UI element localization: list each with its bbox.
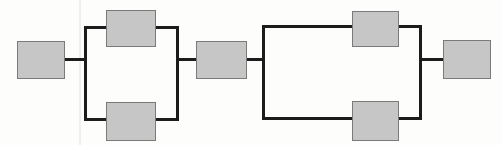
block-input-rect[interactable] [18, 42, 65, 79]
block-b-bottom[interactable] [353, 102, 399, 141]
block-output-rect[interactable] [444, 41, 491, 79]
block-b-bottom-rect[interactable] [353, 102, 399, 141]
diagram-canvas [0, 0, 502, 145]
block-input[interactable] [18, 42, 65, 79]
block-output[interactable] [444, 41, 491, 79]
block-a-bottom-rect[interactable] [107, 103, 156, 141]
block-a-top[interactable] [107, 11, 156, 47]
block-a-bottom[interactable] [107, 103, 156, 141]
reliability-block-diagram [0, 0, 502, 145]
block-middle[interactable] [197, 42, 247, 79]
block-middle-rect[interactable] [197, 42, 247, 79]
block-b-top-rect[interactable] [353, 12, 399, 47]
block-a-top-rect[interactable] [107, 11, 156, 47]
block-b-top[interactable] [353, 12, 399, 47]
